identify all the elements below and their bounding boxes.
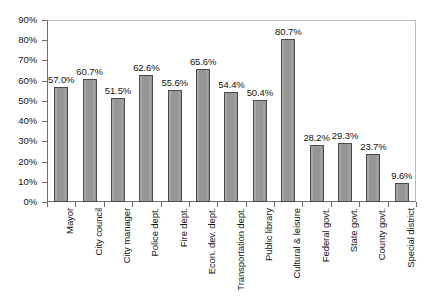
bar-slot (217, 20, 245, 202)
x-axis-tick-mark (302, 202, 303, 207)
x-axis-tick-mark (104, 202, 105, 207)
bar-slot (47, 20, 75, 202)
y-axis-tick-label: 50% (18, 96, 37, 106)
y-axis: 0%10%20%30%40%50%60%70%80%90% (0, 0, 44, 305)
bar-slot (331, 20, 359, 202)
bar-slot (189, 20, 217, 202)
x-axis-tick-mark (132, 202, 133, 207)
x-axis-tick-mark (331, 202, 332, 207)
bar[interactable] (139, 75, 153, 202)
x-axis-category-label: Econ. dev. dept. (207, 208, 217, 274)
bar[interactable] (111, 98, 125, 202)
x-axis-tick-mark (359, 202, 360, 207)
bar[interactable] (310, 145, 324, 202)
x-axis-category-label: Federal govt. (321, 208, 331, 262)
bar[interactable] (83, 79, 97, 202)
bar-slot (132, 20, 160, 202)
bar-slot (246, 20, 274, 202)
bar-slot (104, 20, 132, 202)
x-axis-tick-mark (217, 202, 218, 207)
x-axis-tick-mark (47, 202, 48, 207)
x-axis-category-label: City council (94, 208, 104, 255)
bar-slot (302, 20, 330, 202)
x-axis-category-label: Public library (264, 208, 274, 261)
bar[interactable] (253, 100, 267, 202)
bar-value-label: 9.6% (382, 170, 422, 181)
x-axis-category-label: State govt. (349, 208, 359, 252)
x-axis-category-label: Police dept. (150, 208, 160, 256)
y-axis-tick-label: 90% (18, 15, 37, 25)
bar[interactable] (366, 154, 380, 202)
y-axis-tick-label: 40% (18, 116, 37, 126)
bar-slot (75, 20, 103, 202)
x-axis-tick-mark (416, 202, 417, 207)
bars-layer: 57.0%60.7%51.5%62.6%55.6%65.6%54.4%50.4%… (47, 20, 416, 202)
y-axis-tick-label: 30% (18, 136, 37, 146)
y-axis-tick-label: 10% (18, 177, 37, 187)
bar[interactable] (395, 183, 409, 202)
bar-slot (274, 20, 302, 202)
bar[interactable] (54, 87, 68, 202)
x-axis-tick-mark (75, 202, 76, 207)
y-axis-tick-label: 0% (23, 197, 37, 207)
y-axis-tick-label: 70% (18, 55, 37, 65)
x-axis-category-label: Transportation dept. (236, 208, 246, 291)
bar[interactable] (281, 39, 295, 202)
x-axis-tick-mark (274, 202, 275, 207)
x-axis-tick-mark (189, 202, 190, 207)
x-axis-category-label: City manager (122, 208, 132, 263)
bar[interactable] (224, 92, 238, 202)
x-axis-tick-mark (246, 202, 247, 207)
x-axis-tick-mark (161, 202, 162, 207)
x-axis-category-label: Fire dept. (179, 208, 189, 247)
bar-chart: 0%10%20%30%40%50%60%70%80%90% 57.0%60.7%… (0, 0, 434, 305)
bar[interactable] (196, 69, 210, 202)
x-axis-tick-mark (388, 202, 389, 207)
x-axis-category-label: County govt. (377, 208, 387, 260)
x-axis-category-label: Mayor (65, 208, 75, 234)
x-axis-category-label: Cultural & leisure (292, 208, 302, 279)
bar[interactable] (338, 143, 352, 202)
x-axis-category-label: Special district (406, 208, 416, 268)
bar[interactable] (168, 90, 182, 202)
y-axis-tick-label: 80% (18, 35, 37, 45)
y-axis-tick-label: 60% (18, 76, 37, 86)
x-axis-labels: MayorCity councilCity managerPolice dept… (47, 208, 416, 304)
bar-slot (161, 20, 189, 202)
y-axis-tick-label: 20% (18, 157, 37, 167)
